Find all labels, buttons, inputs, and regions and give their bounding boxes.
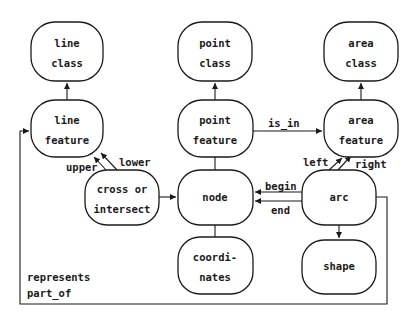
node-label: cross or [97, 183, 148, 195]
edge-label-lower: lower [119, 156, 151, 168]
node-point-feature: point feature [178, 100, 253, 157]
node-label: arc [330, 191, 349, 203]
node-label: class [199, 57, 231, 69]
edge-label-is-in: is_in [268, 117, 300, 130]
node-label: feature [193, 134, 237, 146]
edge-left [328, 158, 342, 171]
node-label: feature [339, 134, 383, 146]
edge-label-left: left [303, 156, 328, 168]
node-label: point [199, 37, 231, 49]
node-label: area [348, 37, 373, 49]
edge-label-part-of: part_of [27, 287, 71, 300]
node-area-class: area class [324, 22, 398, 81]
node-label: nates [199, 271, 231, 283]
node-cross-or-intersect: cross or intersect [85, 170, 159, 225]
node-label: point [199, 114, 231, 126]
edge-label-begin: begin [265, 180, 297, 192]
node-area-feature: area feature [324, 100, 398, 157]
er-diagram: line class point class area class line f… [0, 0, 412, 322]
node-label: class [345, 57, 377, 69]
edge-label-right: right [355, 158, 387, 170]
node-line-feature: line feature [31, 100, 103, 157]
node-label: feature [45, 134, 89, 146]
node-label: intersect [94, 203, 151, 215]
node-label: class [51, 57, 83, 69]
node-point-class: point class [178, 22, 252, 81]
node-label: line [54, 114, 79, 126]
node-node: node [178, 170, 253, 225]
node-label: area [348, 114, 373, 126]
edge-right [337, 156, 351, 171]
node-label: coordi- [193, 251, 237, 263]
edge-label-end: end [271, 204, 290, 216]
node-shape: shape [302, 240, 376, 294]
node-coordinates: coordi- nates [178, 237, 253, 294]
node-label: shape [323, 260, 355, 272]
node-arc: arc [302, 170, 376, 225]
edge-label-represents: represents [27, 271, 90, 283]
node-line-class: line class [31, 22, 103, 81]
node-label: node [202, 191, 227, 203]
edge-label-upper: upper [66, 161, 98, 173]
node-label: line [54, 37, 79, 49]
